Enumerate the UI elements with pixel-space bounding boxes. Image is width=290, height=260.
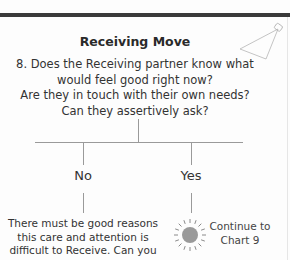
no-text-line: difficult to Receive. Can you: [0, 244, 166, 258]
sun-icon: [171, 216, 209, 254]
question-line: would feel good right now?: [0, 73, 270, 89]
connector-no-lower: [83, 193, 84, 213]
question-text: 8. Does the Receiving partner know what …: [0, 57, 270, 119]
question-line: Can they assertively ask?: [0, 104, 270, 120]
no-text-line: this care and attention is: [0, 231, 166, 245]
connector-center-vertical: [138, 119, 139, 142]
connector-yes-lower: [191, 193, 192, 213]
page-title: Receiving Move: [0, 34, 270, 49]
branch-label-yes: Yes: [161, 168, 221, 183]
connector-no-upper: [83, 143, 84, 165]
question-line: 8. Does the Receiving partner know what: [0, 57, 270, 73]
yes-text-line: Chart 9: [205, 234, 275, 248]
page-edge-line: [287, 17, 288, 260]
connector-horizontal: [35, 142, 243, 143]
branch-label-no: No: [53, 168, 113, 183]
yes-text-line: Continue to: [205, 220, 275, 234]
top-divider-bar: [0, 13, 290, 17]
yes-branch-text: Continue to Chart 9: [205, 220, 275, 247]
no-text-line: There must be good reasons: [0, 217, 166, 231]
connector-yes-upper: [191, 143, 192, 165]
chart-page: Receiving Move 8. Does the Receiving par…: [0, 0, 290, 260]
no-branch-text: There must be good reasons this care and…: [0, 217, 166, 258]
question-line: Are they in touch with their own needs?: [0, 88, 270, 104]
